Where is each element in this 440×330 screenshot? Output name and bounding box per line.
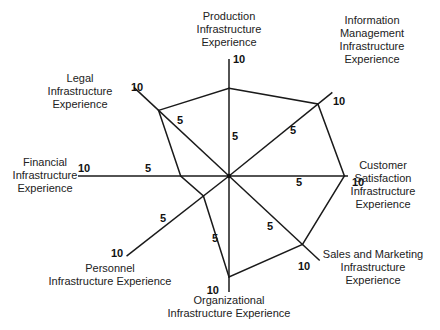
axis-line <box>229 92 332 176</box>
tick-label-5: 5 <box>267 220 273 232</box>
axis-label: OrganizationalInfrastructure Experience <box>168 294 291 319</box>
data-point <box>158 110 160 112</box>
data-point <box>228 276 230 278</box>
data-point <box>228 87 230 89</box>
tick-label-10: 10 <box>333 95 345 107</box>
axis-label: Sales and MarketingInfrastructureExperie… <box>323 248 423 286</box>
data-point <box>203 195 205 197</box>
tick-label-5: 5 <box>290 124 296 136</box>
tick-label-5: 5 <box>232 130 238 142</box>
tick-label-10: 10 <box>111 247 123 259</box>
axis-line <box>229 176 320 261</box>
tick-label-5: 5 <box>160 212 166 224</box>
tick-label-5: 5 <box>145 162 151 174</box>
axis-label: InformationManagementInfrastructureExper… <box>340 14 405 65</box>
radar-chart: 105ProductionInfrastructureExperience105… <box>0 0 440 330</box>
axis-label: LegalInfrastructureExperience <box>48 72 113 110</box>
tick-label-5: 5 <box>177 114 183 126</box>
data-point <box>344 175 346 177</box>
tick-label-10: 10 <box>233 53 245 65</box>
tick-label-10: 10 <box>131 81 143 93</box>
axis-line <box>127 176 229 256</box>
axis-label: ProductionInfrastructureExperience <box>197 10 262 48</box>
axis-label: CustomerSatisfactionInfrastructureExperi… <box>351 159 416 210</box>
tick-label-5: 5 <box>296 176 302 188</box>
data-point <box>317 103 319 105</box>
center-point <box>227 174 231 178</box>
axis-label: PersonnelInfrastructure Experience <box>49 262 172 287</box>
data-point <box>302 244 304 246</box>
tick-label-10: 10 <box>78 162 90 174</box>
data-polygon <box>159 88 345 277</box>
axis-label: FinancialInfrastructureExperience <box>13 156 78 194</box>
data-point <box>180 175 182 177</box>
tick-label-10: 10 <box>298 260 310 272</box>
